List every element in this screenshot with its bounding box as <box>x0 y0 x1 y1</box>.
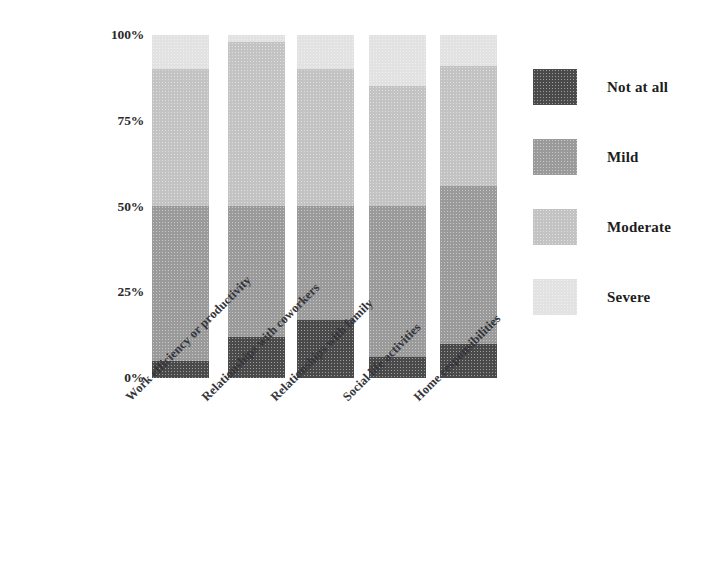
legend-swatch-icon <box>533 139 577 175</box>
bar-segment-moderate <box>369 86 426 206</box>
x-axis-category-labels: Work efficiency or productivityRelations… <box>0 380 520 563</box>
bar-segment-moderate <box>297 69 354 206</box>
y-axis-tick-75: 75% <box>88 114 144 128</box>
bar-segment-moderate <box>228 42 285 207</box>
legend-item-severe[interactable]: Severe <box>533 278 650 316</box>
plot-area: 100%75%50%25%0% Work efficiency or produ… <box>0 0 520 563</box>
bar-segment-severe <box>369 35 426 86</box>
stacked-bar-chart-figure: 100%75%50%25%0% Work efficiency or produ… <box>0 0 705 563</box>
legend-item-moderate[interactable]: Moderate <box>533 208 671 246</box>
legend-label: Not at all <box>607 79 668 96</box>
bar-segment-moderate <box>440 66 497 186</box>
bar-segment-severe <box>440 35 497 66</box>
y-axis-tick-25: 25% <box>88 285 144 299</box>
bar-segment-moderate <box>152 69 209 206</box>
legend-label: Moderate <box>607 219 671 236</box>
chart-legend: Not at allMildModerateSevere <box>533 60 705 325</box>
legend-label: Mild <box>607 149 639 166</box>
legend-swatch-icon <box>533 69 577 105</box>
y-axis-tick-50: 50% <box>88 200 144 214</box>
legend-item-not-at-all[interactable]: Not at all <box>533 68 668 106</box>
legend-swatch-icon <box>533 209 577 245</box>
y-axis-tick-100: 100% <box>88 28 144 42</box>
bar-segment-severe <box>297 35 354 69</box>
legend-label: Severe <box>607 289 650 306</box>
legend-item-mild[interactable]: Mild <box>533 138 639 176</box>
bar-segment-severe <box>152 35 209 69</box>
legend-swatch-icon <box>533 279 577 315</box>
bar-segment-severe <box>228 35 285 42</box>
